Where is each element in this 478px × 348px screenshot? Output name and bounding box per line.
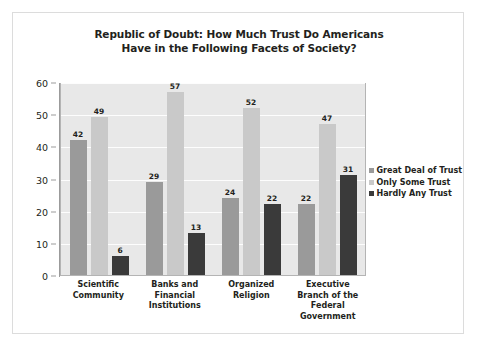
x-axis-label-line: Community (61, 291, 136, 302)
bar-value-label: 13 (181, 223, 211, 232)
bar-value-label: 22 (291, 194, 321, 203)
chart-title-line-2: Have in the Following Facets of Society? (13, 41, 465, 55)
bar[interactable] (243, 108, 260, 275)
bar-value-label: 29 (139, 172, 169, 181)
bar[interactable] (188, 233, 205, 275)
y-tick-mark (51, 211, 56, 212)
x-axis-label: OrganizedReligion (213, 280, 290, 322)
legend-swatch-icon (369, 168, 374, 173)
legend-item[interactable]: Great Deal of Trust (369, 165, 462, 177)
bar-value-label: 42 (63, 130, 93, 139)
bar-group: 224731 (289, 84, 365, 275)
x-axis-label-line: Institutions (138, 301, 213, 312)
y-tick-mark (51, 243, 56, 244)
legend-label: Only Some Trust (377, 178, 451, 187)
y-tick-label: 20 (36, 206, 48, 217)
bar-wrap: 57 (167, 84, 184, 275)
legend-label: Hardly Any Trust (377, 189, 452, 198)
bar-wrap: 52 (243, 84, 260, 275)
y-tick-label: 40 (36, 142, 48, 153)
plot-area: 42496295713245222224731 (60, 83, 366, 276)
x-axis-label-line: Branch of the (291, 291, 366, 302)
y-tick-label: 0 (42, 271, 48, 282)
bar[interactable] (146, 182, 163, 275)
y-axis: 0102030405060 (13, 83, 56, 276)
legend-item[interactable]: Hardly Any Trust (369, 188, 462, 200)
y-tick-mark (51, 147, 56, 148)
x-axis-label-line: Religion (214, 291, 289, 302)
bar-group: 42496 (61, 84, 137, 275)
bar-wrap: 6 (112, 84, 129, 275)
x-axis-label: Banks andFinancialInstitutions (137, 280, 214, 322)
chart-title-line-1: Republic of Doubt: How Much Trust Do Ame… (13, 27, 465, 41)
bar[interactable] (340, 175, 357, 275)
chart-legend: Great Deal of TrustOnly Some TrustHardly… (369, 165, 462, 200)
chart-title: Republic of Doubt: How Much Trust Do Ame… (13, 27, 465, 55)
bar-wrap: 31 (340, 84, 357, 275)
bar-value-label: 22 (257, 194, 287, 203)
x-axis-label-line: Federal (291, 301, 366, 312)
x-axis-label-line: Scientific (61, 280, 136, 291)
y-tick-label: 10 (36, 238, 48, 249)
bar[interactable] (222, 198, 239, 275)
bar[interactable] (264, 204, 281, 275)
bar-wrap: 47 (319, 84, 336, 275)
bar-value-label: 49 (84, 107, 114, 116)
bar-wrap: 29 (146, 84, 163, 275)
x-axis-label-line: Government (291, 312, 366, 323)
bar-value-label: 31 (333, 165, 363, 174)
legend-item[interactable]: Only Some Trust (369, 177, 462, 189)
x-axis-label-line: Financial (138, 291, 213, 302)
bar-wrap: 22 (264, 84, 281, 275)
chart-card: Republic of Doubt: How Much Trust Do Ame… (12, 12, 464, 334)
bars-layer: 42496295713245222224731 (61, 84, 365, 275)
bar-wrap: 13 (188, 84, 205, 275)
y-tick-mark (51, 115, 56, 116)
bar-value-label: 47 (312, 114, 342, 123)
bar[interactable] (70, 140, 87, 275)
x-axis-label-line: Banks and (138, 280, 213, 291)
bar-value-label: 57 (160, 82, 190, 91)
x-axis-label-line: Executive (291, 280, 366, 291)
bar-wrap: 22 (298, 84, 315, 275)
y-tick-label: 50 (36, 110, 48, 121)
bar[interactable] (319, 124, 336, 275)
y-tick-mark (51, 276, 56, 277)
x-axis-label: ScientificCommunity (60, 280, 137, 322)
bar-wrap: 24 (222, 84, 239, 275)
bar-value-label: 52 (236, 98, 266, 107)
bar[interactable] (167, 92, 184, 275)
y-tick-mark (51, 83, 56, 84)
x-axis-label-line: Organized (214, 280, 289, 291)
x-axis-label: ExecutiveBranch of theFederalGovernment (290, 280, 367, 322)
y-tick-label: 60 (36, 78, 48, 89)
bar-value-label: 24 (215, 188, 245, 197)
legend-swatch-icon (369, 180, 374, 185)
bar-group: 295713 (137, 84, 213, 275)
y-tick-mark (51, 179, 56, 180)
bar[interactable] (112, 256, 129, 275)
bar[interactable] (298, 204, 315, 275)
bar-value-label: 6 (105, 246, 135, 255)
bar-group: 245222 (213, 84, 289, 275)
x-axis-labels: ScientificCommunityBanks andFinancialIns… (60, 280, 366, 322)
y-tick-label: 30 (36, 174, 48, 185)
legend-label: Great Deal of Trust (377, 166, 463, 175)
legend-swatch-icon (369, 191, 374, 196)
